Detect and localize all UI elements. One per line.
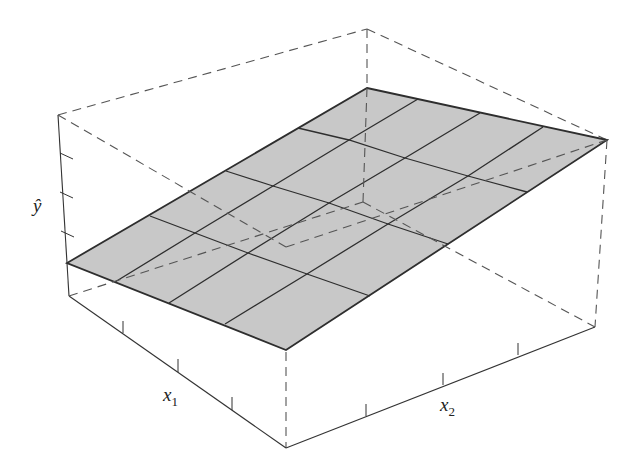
regression-surface xyxy=(67,88,607,350)
yhat-axis-line xyxy=(58,115,69,296)
yhat-axis-label: ŷ xyxy=(31,195,42,216)
box-edge-right-vertical xyxy=(595,140,607,327)
yhat-axis-tick xyxy=(60,153,73,159)
surface-patch xyxy=(67,88,607,350)
box-edge-top-back-left xyxy=(58,29,367,115)
x2-axis-line xyxy=(286,327,595,448)
regression-plane-3d-plot: ŷ x1 x2 xyxy=(0,0,638,473)
yhat-axis-tick xyxy=(60,192,73,198)
x1-axis-label: x1 xyxy=(162,384,178,409)
x2-axis-label: x2 xyxy=(439,394,455,419)
yhat-axis-tick xyxy=(61,231,74,237)
